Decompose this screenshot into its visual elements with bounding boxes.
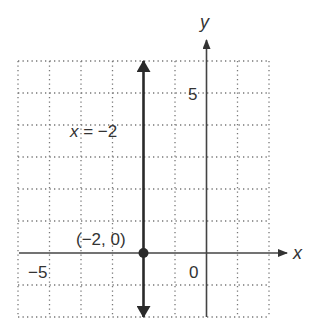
coordinate-plane: y x −5 0 5 x = −2 (−2, 0) bbox=[0, 0, 314, 332]
point-neg2-0 bbox=[139, 248, 149, 258]
line-equation-label: x = −2 bbox=[69, 122, 117, 141]
x-axis-label: x bbox=[292, 243, 303, 263]
tick-label-neg5: −5 bbox=[28, 263, 47, 282]
point-label: (−2, 0) bbox=[76, 230, 126, 249]
y-axis-label: y bbox=[198, 12, 210, 32]
tick-label-0: 0 bbox=[189, 263, 198, 282]
line-equation-rest: = −2 bbox=[79, 122, 118, 141]
line-equation-var: x bbox=[69, 122, 79, 141]
tick-label-5: 5 bbox=[188, 85, 197, 104]
